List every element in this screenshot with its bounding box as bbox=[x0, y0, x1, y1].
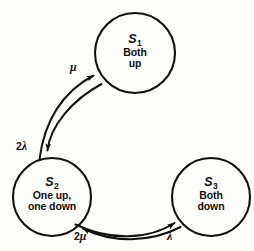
state-circle-s3 bbox=[172, 158, 250, 236]
state-circle-s2 bbox=[13, 158, 91, 236]
state-circle-s1 bbox=[95, 13, 175, 93]
transition-arrow-s1-to-s2 bbox=[48, 84, 102, 151]
state-transition-diagram: S1 Both up S2 One up, one down S3 Both d… bbox=[0, 0, 254, 251]
diagram-canvas bbox=[0, 0, 254, 251]
